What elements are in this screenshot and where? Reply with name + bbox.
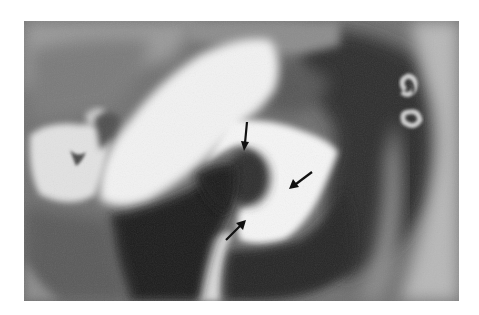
radiograph-rendering [24,21,459,301]
radiograph-image [24,21,459,301]
